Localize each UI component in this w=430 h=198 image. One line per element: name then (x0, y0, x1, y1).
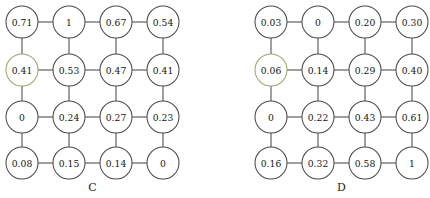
grid-node[interactable]: 0 (6, 101, 38, 133)
node-value-label: 1 (66, 17, 72, 28)
grid-node[interactable]: 0.06 (255, 54, 287, 86)
node-value-label: 0.22 (308, 112, 328, 123)
node-value-label: 0.23 (153, 112, 174, 123)
grid-node[interactable]: 0.53 (53, 54, 85, 86)
grid-node[interactable]: 0.16 (255, 147, 287, 179)
grid-node[interactable]: 0 (147, 147, 179, 179)
grid-node[interactable]: 0.23 (147, 101, 179, 133)
node-value-label: 0.24 (59, 112, 80, 123)
node-value-label: 0.53 (59, 65, 80, 76)
edge-group (22, 22, 163, 163)
grid-node[interactable]: 0.08 (6, 147, 38, 179)
grid-node[interactable]: 0.40 (396, 54, 428, 86)
node-value-label: 0.71 (12, 17, 32, 28)
node-value-label: 0.27 (106, 112, 127, 123)
node-value-label: 0.58 (355, 158, 376, 169)
node-value-label: 0.67 (106, 17, 127, 28)
node-value-label: 0 (160, 158, 166, 169)
node-value-label: 0.32 (308, 158, 328, 169)
node-value-label: 0.40 (402, 65, 423, 76)
grid-node[interactable]: 0.14 (302, 54, 334, 86)
grid-node[interactable]: 0.67 (100, 6, 132, 38)
node-value-label: 0.14 (106, 158, 127, 169)
node-value-label: 0 (315, 17, 321, 28)
grid-node[interactable]: 1 (396, 147, 428, 179)
node-value-label: 0.29 (355, 65, 376, 76)
node-value-label: 0.41 (153, 65, 173, 76)
node-value-label: 0.61 (402, 112, 422, 123)
grid-node[interactable]: 0.24 (53, 101, 85, 133)
grid-node[interactable]: 0.41 (6, 54, 38, 86)
node-value-label: 0.47 (106, 65, 127, 76)
node-value-label: 0.20 (355, 17, 376, 28)
grid-node[interactable]: 0.61 (396, 101, 428, 133)
node-value-label: 0.06 (261, 65, 282, 76)
node-value-label: 0 (268, 112, 274, 123)
grid-node[interactable]: 0.27 (100, 101, 132, 133)
node-value-label: 0.43 (355, 112, 376, 123)
panel-label-d: D (255, 181, 428, 194)
grid-node[interactable]: 0.41 (147, 54, 179, 86)
grid-node[interactable]: 0.32 (302, 147, 334, 179)
grid-node[interactable]: 0.14 (100, 147, 132, 179)
edge-group (271, 22, 412, 163)
grid-node[interactable]: 0.47 (100, 54, 132, 86)
grid-node[interactable]: 0.29 (349, 54, 381, 86)
node-value-label: 0 (19, 112, 25, 123)
node-value-label: 0.08 (12, 158, 33, 169)
node-grid-panel-d: 0.0300.200.300.060.140.290.4000.220.430.… (249, 0, 430, 198)
node-value-label: 1 (409, 158, 415, 169)
grid-node[interactable]: 0.15 (53, 147, 85, 179)
node-grid-panel-c: 0.7110.670.540.410.530.470.4100.240.270.… (0, 0, 189, 198)
grid-node[interactable]: 0.22 (302, 101, 334, 133)
node-value-label: 0.15 (59, 158, 80, 169)
panel-label-c: C (6, 181, 179, 194)
node-value-label: 0.14 (308, 65, 329, 76)
grid-node[interactable]: 0.20 (349, 6, 381, 38)
grid-node[interactable]: 0.03 (255, 6, 287, 38)
node-value-label: 0.30 (402, 17, 423, 28)
grid-node[interactable]: 0.30 (396, 6, 428, 38)
grid-node[interactable]: 0.43 (349, 101, 381, 133)
grid-node[interactable]: 0.71 (6, 6, 38, 38)
grid-node[interactable]: 0 (302, 6, 334, 38)
grid-node[interactable]: 0 (255, 101, 287, 133)
node-value-label: 0.03 (261, 17, 282, 28)
node-value-label: 0.16 (261, 158, 282, 169)
grid-node[interactable]: 0.54 (147, 6, 179, 38)
grid-node[interactable]: 0.58 (349, 147, 381, 179)
grid-node[interactable]: 1 (53, 6, 85, 38)
node-value-label: 0.54 (153, 17, 174, 28)
figure-canvas: 0.7110.670.540.410.530.470.4100.240.270.… (0, 0, 430, 198)
node-value-label: 0.41 (12, 65, 32, 76)
